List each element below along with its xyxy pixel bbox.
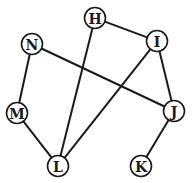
nodes-layer: HINMJLK [7,8,185,177]
node-label: I [154,34,161,50]
graph-diagram: HINMJLK [0,0,192,183]
edge-n-m [19,54,30,102]
node-label: H [88,11,101,27]
edge-m-l [23,121,51,157]
node-label: N [26,37,39,53]
node-j: J [164,101,185,122]
node-l: L [48,156,69,177]
node-k: K [131,156,152,177]
node-label: K [135,159,148,175]
node-n: N [22,34,43,55]
edge-i-j [159,51,171,101]
edge-h-i [105,22,147,38]
node-label: M [9,106,25,122]
edge-j-k [146,120,168,157]
edge-h-l [61,28,93,156]
node-label: J [169,104,178,120]
node-m: M [7,103,28,124]
node-label: L [53,159,63,175]
edge-n-j [41,48,164,106]
node-i: I [147,31,168,52]
node-h: H [85,8,106,29]
